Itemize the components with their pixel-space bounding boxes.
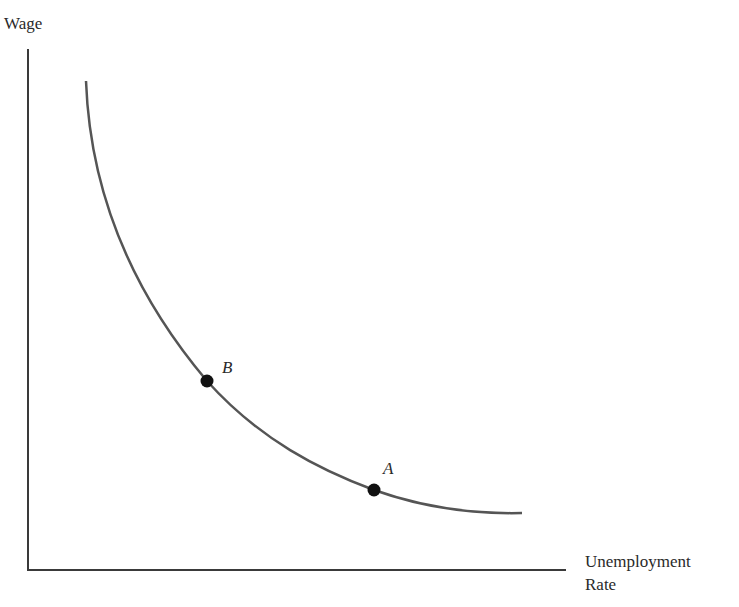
point-b-marker: [201, 375, 214, 388]
wage-curve: [86, 81, 522, 513]
y-axis-label: Wage: [4, 14, 42, 34]
x-axis-label-line1: Unemployment: [585, 552, 691, 572]
point-b-label: B: [222, 358, 232, 378]
chart-canvas: [0, 0, 739, 607]
point-a-label: A: [383, 459, 393, 479]
point-a-marker: [368, 484, 381, 497]
x-axis-label-line2: Rate: [585, 575, 616, 595]
